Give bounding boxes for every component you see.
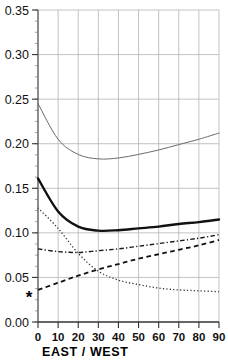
x-tick-label: 80 [192, 331, 205, 343]
x-tick-label-layer: 0102030405060708090 [35, 331, 226, 343]
y-tick-label: 0.00 [5, 316, 29, 330]
y-tick-label-layer: 0.000.050.100.150.200.250.300.35 [5, 4, 29, 330]
series-line-bold-solid [38, 178, 219, 230]
series-line-dash-dot [38, 235, 219, 253]
x-tick-label: 90 [213, 331, 226, 343]
tick-layer [32, 10, 219, 328]
x-tick-label: 40 [112, 331, 125, 343]
x-tick-label: 30 [92, 331, 105, 343]
y-tick-label: 0.35 [5, 4, 29, 18]
annotation-layer: * [26, 288, 33, 307]
x-tick-label: 50 [132, 331, 145, 343]
x-axis-title: EAST / WEST [42, 345, 128, 359]
series-layer [38, 104, 219, 292]
series-line-thin-solid [38, 104, 219, 159]
grid-layer [38, 10, 219, 322]
y-tick-label: 0.20 [5, 137, 29, 151]
x-tick-label: 70 [172, 331, 185, 343]
y-tick-label: 0.15 [5, 182, 29, 196]
line-chart: * 0.000.050.100.150.200.250.300.35 01020… [0, 0, 228, 362]
series-line-dashed [38, 240, 219, 290]
axis-layer [38, 10, 219, 322]
star-marker: * [26, 288, 33, 307]
chart-container: * 0.000.050.100.150.200.250.300.35 01020… [0, 0, 228, 362]
y-tick-label: 0.30 [5, 48, 29, 62]
x-tick-label: 0 [35, 331, 41, 343]
series-line-dotted [38, 208, 219, 292]
y-tick-label: 0.10 [5, 226, 29, 240]
x-tick-label: 20 [72, 331, 85, 343]
y-tick-label: 0.05 [5, 271, 29, 285]
y-tick-label: 0.25 [5, 93, 29, 107]
x-tick-label: 60 [152, 331, 165, 343]
x-tick-label: 10 [52, 331, 65, 343]
